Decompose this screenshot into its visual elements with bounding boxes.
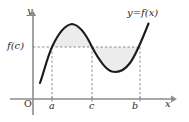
x-tick-label-a: a	[49, 101, 55, 111]
y-axis-label: y	[27, 6, 33, 16]
x-tick-label-c: c	[89, 101, 94, 111]
calculus-figure: y x O f(c) a c b y=f(x)	[0, 0, 189, 122]
x-axis-label: x	[165, 99, 171, 109]
curve-label: y=f(x)	[127, 8, 158, 18]
x-axis-arrow-icon	[171, 96, 177, 103]
y-tick-label-fc: f(c)	[7, 41, 24, 51]
x-tick-label-b: b	[132, 101, 138, 111]
origin-label: O	[24, 99, 32, 109]
